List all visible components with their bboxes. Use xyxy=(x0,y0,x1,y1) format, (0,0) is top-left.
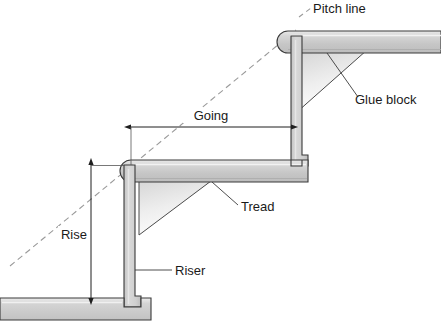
going-dimension: Going xyxy=(131,108,291,165)
pitch-line xyxy=(10,30,296,266)
going-label: Going xyxy=(194,108,229,123)
rise-dimension: Rise xyxy=(58,165,124,298)
tread-callout: Tread xyxy=(212,182,274,214)
lower-riser-shape xyxy=(124,165,141,307)
pitch-line-leader xyxy=(299,8,311,17)
middle-tread xyxy=(120,160,308,182)
pitch-line-label: Pitch line xyxy=(313,1,366,16)
pitch-line-callout: Pitch line xyxy=(313,1,366,16)
stair-diagram-figure: Going Rise Pitch line Glue block Tread R… xyxy=(0,0,441,328)
rise-label: Rise xyxy=(61,227,87,242)
glue-block-label: Glue block xyxy=(355,92,417,107)
tread-leader xyxy=(212,182,238,205)
lower-riser xyxy=(124,165,141,307)
tread-label: Tread xyxy=(241,199,274,214)
lower-glue-block xyxy=(139,178,215,235)
riser-label: Riser xyxy=(175,263,206,278)
riser-callout: Riser xyxy=(135,263,206,278)
stair-diagram-canvas: Going Rise Pitch line Glue block Tread R… xyxy=(0,0,441,328)
lower-glue-block-shape xyxy=(139,178,215,235)
pitch-line-guide xyxy=(10,8,311,266)
